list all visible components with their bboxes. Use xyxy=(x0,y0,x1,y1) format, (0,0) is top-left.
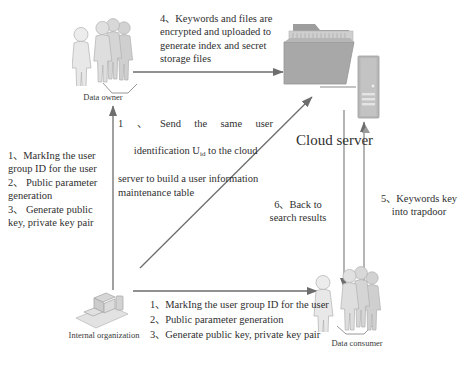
step6-line-2: search results xyxy=(258,211,338,224)
data-owner-figures xyxy=(72,16,144,86)
step6-line-1: 6、Back to xyxy=(258,198,338,211)
step-left-text: 1、MarkIng the user group ID for the user… xyxy=(8,149,112,230)
cloud-server-label: Cloud server xyxy=(296,131,373,150)
folder-icon xyxy=(281,18,359,90)
step1-cloud-line-2: identification Uid to the cloud xyxy=(118,130,273,172)
step1-cloud-line-3: server to build a user information xyxy=(118,172,273,185)
step4-line-4: storage files xyxy=(160,52,286,65)
workstation-icon xyxy=(72,288,134,332)
step-bottom-line-3: 3、Generate public key, private key pair xyxy=(150,327,330,342)
step-left-line-6: key, private key pair xyxy=(8,216,112,229)
step1-ident-b: to the cloud xyxy=(205,145,257,156)
step-left-line-2: group ID for the user xyxy=(8,162,112,175)
step1-sep: 、 xyxy=(137,117,147,130)
step1-cloud-line-1: 1 、 Send the same user xyxy=(118,117,273,130)
server-tower-icon xyxy=(355,54,383,126)
step-left-line-4: generation xyxy=(8,189,112,202)
step4-line-1: 4、Keywords and files are xyxy=(160,12,286,25)
step5-text: 5、Keywords key into trapdoor xyxy=(372,192,466,219)
step-left-line-1: 1、MarkIng the user xyxy=(8,149,112,162)
step1-w2: the xyxy=(194,117,207,130)
step1-num: 1 xyxy=(118,117,123,130)
step1-w4: user xyxy=(255,117,273,130)
data-owner-label: Data owner xyxy=(70,92,136,103)
step1-cloud-line-4: maintenance table xyxy=(118,186,273,199)
step-bottom-line-1: 1、MarkIng the user group ID for the user xyxy=(150,297,330,312)
step5-line-2: into trapdoor xyxy=(372,205,466,218)
step1-w1: Send xyxy=(160,117,181,130)
figure xyxy=(72,28,91,87)
step-bottom-text: 1、MarkIng the user group ID for the user… xyxy=(150,297,330,343)
step4-line-2: encrypted and uploaded to xyxy=(160,25,286,38)
step4-line-3: generate index and secret xyxy=(160,39,286,52)
step-left-line-5: 3、 Generate public xyxy=(8,203,112,216)
step1-w3: same xyxy=(221,117,243,130)
step5-line-1: 5、Keywords key xyxy=(372,192,466,205)
step1-ident-a: identification U xyxy=(134,145,200,156)
diagram-canvas: Data owner xyxy=(0,0,468,368)
step-left-line-3: 2、 Public parameter xyxy=(8,176,112,189)
step1-cloud-text: 1 、 Send the same user identification Ui… xyxy=(118,117,273,199)
step6-text: 6、Back to search results xyxy=(258,198,338,225)
step-bottom-line-2: 2、Public parameter generation xyxy=(150,312,330,327)
step4-text: 4、Keywords and files are encrypted and u… xyxy=(160,12,286,66)
internal-organization-label: Internal organization xyxy=(46,330,162,341)
